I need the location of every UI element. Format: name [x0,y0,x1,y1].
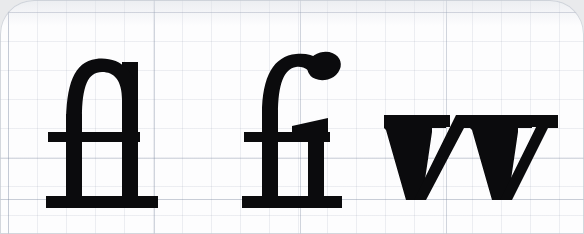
double-v-glyph [378,14,558,224]
fi-ligature-glyph [232,14,358,224]
scanned-typography-figure [0,0,584,234]
paper-sheet [0,0,584,234]
glyph-row [0,0,584,234]
fl-ligature-glyph [22,14,170,224]
